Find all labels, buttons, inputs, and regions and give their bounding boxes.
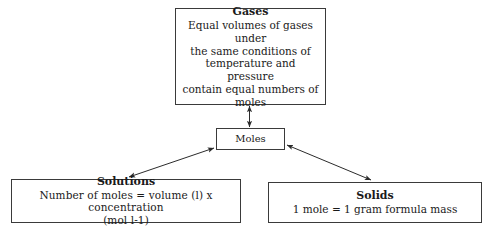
node-gases-body: Equal volumes of gases under the same co… [181,19,320,109]
node-solids: Solids 1 mole = 1 gram formula mass [268,182,482,223]
node-solutions-body: Number of moles = volume (l) x concentra… [16,189,236,227]
node-solids-title: Solids [356,189,394,202]
node-gases: Gases Equal volumes of gases under the s… [175,8,326,105]
node-solutions: Solutions Number of moles = volume (l) x… [11,179,241,223]
edge-moles-solutions [129,148,214,177]
node-solids-body: 1 mole = 1 gram formula mass [293,203,458,216]
node-moles-label: Moles [235,133,266,145]
edge-moles-solids [287,145,371,180]
diagram-canvas: Gases Equal volumes of gases under the s… [0,0,496,238]
node-gases-title: Gases [233,5,269,18]
node-moles: Moles [216,128,285,150]
node-solutions-title: Solutions [97,175,155,188]
